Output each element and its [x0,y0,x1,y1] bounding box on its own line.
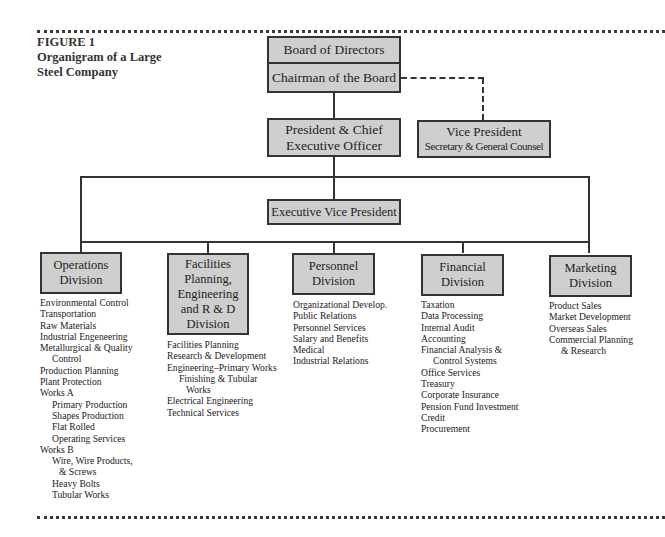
division-box-operations: Operations Division [40,252,122,294]
division-title-line: Division [309,274,358,289]
division-box-financial: Financial Division [421,254,504,296]
division-title-line: Personnel [309,259,358,274]
function-item: Public Relations [293,310,387,321]
function-item: Financial Analysis & [421,344,519,355]
board-of-directors-box: Board of Directors [267,36,401,64]
vice-president-label-line1: Vice President [425,124,543,139]
function-item: Production Planning [40,365,133,376]
marketing-function-list: Product SalesMarket DevelopmentOverseas … [549,300,633,356]
president-box: President & Chief Executive Officer [267,118,401,157]
function-item: & Research [549,345,633,356]
function-item: Transportation [40,308,133,319]
division-box-facilities: Facilities Planning, Engineering and R &… [167,253,249,335]
function-item: Organizational Develop. [293,299,387,310]
function-item: Works A [40,387,133,398]
function-item: Wire, Wire Products, [40,455,133,466]
function-item: Shapes Production [40,410,133,421]
connector-chairman-president [333,92,335,119]
division-title-line: and R & D [177,302,238,317]
function-item: Commercial Planning [549,334,633,345]
function-item: Personnel Services [293,322,387,333]
function-item: Works [167,384,277,395]
function-item: Salary and Benefits [293,333,387,344]
function-item: Works B [40,444,133,455]
president-label-line2: Executive Officer [285,138,383,154]
connector-division-bus [80,241,590,243]
division-box-personnel: Personnel Division [292,253,375,295]
figure-caption: FIGURE 1 Organigram of a Large Steel Com… [37,35,162,80]
function-item: Plant Protection [40,376,133,387]
connector-personnel [333,242,335,253]
division-title-line: Division [54,273,109,288]
top-dotted-rule [37,30,665,33]
function-item: Tubular Works [40,489,133,500]
figure-label: FIGURE 1 [37,35,162,50]
function-item: Raw Materials [40,320,133,331]
division-title-line: Facilities [177,257,238,272]
function-item: Internal Audit [421,322,519,333]
president-label-line1: President & Chief [285,122,383,138]
function-item: Industrial Relations [293,355,387,366]
function-item: Industrial Engeneering [40,331,133,342]
function-item: Environmental Control [40,297,133,308]
function-item: Treasury [421,378,519,389]
function-item: Research & Development [167,350,277,361]
chairman-label: Chairman of the Board [272,70,396,86]
division-title-line: Marketing [564,261,616,276]
bottom-dotted-rule [37,516,665,519]
function-item: Flat Rolled [40,421,133,432]
executive-vp-label: Executive Vice President [271,205,396,220]
connector-to-exec-vp [333,177,335,200]
figure-caption-line1: Organigram of a Large [37,50,162,65]
operations-function-list: Environmental ControlTransportationRaw M… [40,297,133,500]
division-title-line: Planning, [177,272,238,287]
function-item: Finishing & Tubular [167,373,277,384]
figure-caption-line2: Steel Company [37,65,162,80]
vice-president-box: Vice President Secretary & General Couns… [417,120,551,158]
division-title-line: Operations [54,258,109,273]
function-item: Engineering–Primary Works [167,362,277,373]
division-box-marketing: Marketing Division [549,255,632,297]
function-item: Credit [421,412,519,423]
function-item: Pension Fund Investment [421,401,519,412]
function-item: Technical Services [167,407,277,418]
function-item: Accounting [421,333,519,344]
division-title-line: Division [439,275,486,290]
function-item: Market Development [549,311,633,322]
vice-president-label-line2: Secretary & General Counsel [425,139,543,154]
division-title-line: Division [177,317,238,332]
facilities-function-list: Facilities PlanningResearch & Developmen… [167,339,277,418]
connector-top-horizontal [80,176,590,178]
function-item: Procurement [421,423,519,434]
connector-facilities [207,242,209,253]
executive-vp-box: Executive Vice President [267,199,401,225]
financial-function-list: TaxationData ProcessingInternal AuditAcc… [421,299,519,435]
function-item: Medical [293,344,387,355]
connector-financial [462,242,464,253]
function-item: Control Systems [421,355,519,366]
division-title-line: Engineering [177,287,238,302]
function-item: Facilities Planning [167,339,277,350]
function-item: Primary Production [40,399,133,410]
function-item: Corporate Insurance [421,389,519,400]
dashed-connector-chairman-vp-h [401,77,484,79]
function-item: Heavy Bolts [40,478,133,489]
function-item: Overseas Sales [549,323,633,334]
board-of-directors-label: Board of Directors [283,42,384,58]
function-item: Taxation [421,299,519,310]
connector-president-down [333,156,335,177]
dashed-connector-chairman-vp-v [482,78,484,120]
personnel-function-list: Organizational Develop.Public RelationsP… [293,299,387,367]
function-item: Electrical Engineering [167,395,277,406]
function-item: Operating Services [40,433,133,444]
function-item: & Screws [40,466,133,477]
division-title-line: Financial [439,260,486,275]
division-title-line: Division [564,276,616,291]
function-item: Control [40,353,133,364]
function-item: Metallurgical & Quality [40,342,133,353]
function-item: Product Sales [549,300,633,311]
function-item: Data Processing [421,310,519,321]
function-item: Office Services [421,367,519,378]
chairman-box: Chairman of the Board [267,62,401,93]
